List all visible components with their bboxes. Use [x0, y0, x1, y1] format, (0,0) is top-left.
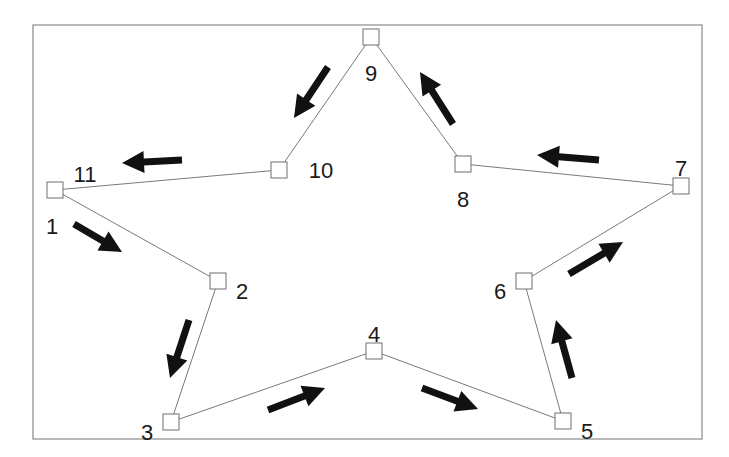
- node-9: [363, 29, 379, 45]
- node-2: [210, 273, 226, 289]
- diagram-frame: [33, 25, 702, 439]
- node-label-1: 1: [46, 214, 58, 239]
- node-8: [455, 156, 471, 172]
- node-label-8: 8: [457, 187, 469, 212]
- node-label-7: 7: [675, 156, 687, 181]
- node-label-10: 10: [309, 158, 333, 183]
- node-label-6: 6: [494, 279, 506, 304]
- node-label-3: 3: [141, 420, 153, 445]
- node-label-9: 9: [365, 61, 377, 86]
- node-5: [555, 413, 571, 429]
- node-label-4: 4: [368, 322, 380, 347]
- node-1: [47, 182, 63, 198]
- node-6: [516, 273, 532, 289]
- node-label-2: 2: [236, 279, 248, 304]
- star-traversal-diagram: 1234567891011: [0, 0, 729, 457]
- node-3: [163, 414, 179, 430]
- node-label-11: 11: [74, 162, 97, 187]
- node-label-5: 5: [581, 419, 593, 444]
- node-10: [271, 162, 287, 178]
